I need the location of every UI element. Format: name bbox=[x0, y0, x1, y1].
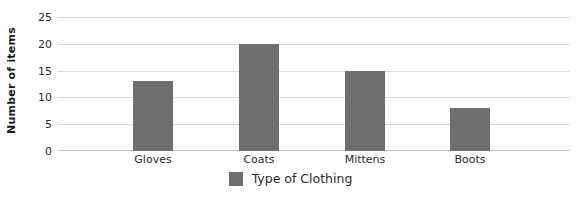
legend-swatch-icon bbox=[229, 172, 243, 186]
bar-chart: Number of items 25 20 15 10 5 0 Gloves C… bbox=[0, 0, 581, 197]
bar-mittens bbox=[345, 71, 385, 151]
y-tick-label-15: 15 bbox=[4, 65, 52, 76]
x-tick-label-boots: Boots bbox=[415, 153, 525, 167]
x-tick-label-gloves: Gloves bbox=[98, 153, 208, 167]
x-tick-label-coats: Coats bbox=[204, 153, 314, 167]
x-tick-label-mittens: Mittens bbox=[310, 153, 420, 167]
bar-coats bbox=[239, 44, 279, 151]
y-tick-label-20: 20 bbox=[4, 38, 52, 49]
x-axis-category-labels: Gloves Coats Mittens Boots bbox=[58, 153, 570, 169]
y-tick-label-0: 0 bbox=[4, 146, 52, 157]
bar-gloves bbox=[133, 81, 173, 151]
gridline-15 bbox=[58, 71, 570, 72]
y-tick-label-5: 5 bbox=[4, 119, 52, 130]
chart-legend: Type of Clothing bbox=[0, 172, 581, 186]
y-axis-tick-labels: 25 20 15 10 5 0 bbox=[0, 17, 52, 151]
y-tick-label-25: 25 bbox=[4, 12, 52, 23]
plot-area bbox=[58, 17, 570, 151]
legend-label: Type of Clothing bbox=[252, 173, 353, 186]
gridline-20 bbox=[58, 44, 570, 45]
bar-boots bbox=[450, 108, 490, 151]
y-tick-label-10: 10 bbox=[4, 92, 52, 103]
gridline-25 bbox=[58, 17, 570, 18]
